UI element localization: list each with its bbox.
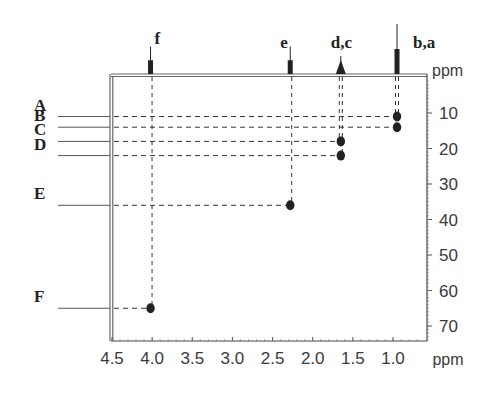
x-tick-label: 3.0	[221, 349, 245, 368]
y-tick-label: 50	[439, 246, 458, 265]
projection-peak-label: e	[280, 33, 288, 52]
x-tick-label: 2.0	[301, 349, 325, 368]
x-tick-label: 4.0	[140, 349, 164, 368]
projection-peak	[148, 60, 153, 74]
projection-peak-label: d,c	[331, 33, 353, 52]
row-label: F	[34, 287, 44, 306]
cross-peak-marker	[286, 200, 294, 210]
y-axis-unit-label: ppm	[432, 62, 463, 79]
top-projection	[148, 24, 399, 74]
projection-peak-label: b,a	[413, 33, 436, 52]
cross-peak-marker	[146, 303, 154, 313]
x-tick-label: 1.5	[341, 349, 365, 368]
guide-lines	[58, 77, 399, 308]
y-tick-label: 30	[439, 175, 458, 194]
cross-peak-marker	[337, 151, 345, 161]
x-tick-label: 3.5	[180, 349, 204, 368]
projection-peak	[288, 60, 293, 74]
x-tick-label: 1.0	[381, 349, 405, 368]
row-label: E	[34, 184, 45, 203]
cross-peak-marker	[393, 122, 401, 132]
cross-peak-marker	[337, 136, 345, 146]
x-axis-unit-label: ppm	[432, 351, 463, 368]
row-label: D	[34, 135, 46, 154]
x-tick-label: 2.5	[261, 349, 285, 368]
labels: fed,cb,aABCDEF	[34, 29, 436, 306]
plot-frame	[110, 74, 427, 341]
x-axis: 4.54.03.53.02.52.01.51.0ppm	[100, 337, 463, 368]
cross-peak-marker	[393, 112, 401, 122]
projection-peak	[395, 49, 400, 74]
y-tick-label: 10	[439, 104, 458, 123]
projection-peak-label: f	[155, 29, 161, 48]
y-tick-label: 70	[439, 317, 458, 336]
y-tick-label: 60	[439, 282, 458, 301]
y-tick-label: 40	[439, 211, 458, 230]
y-axis: 10203040506070ppm	[427, 62, 463, 340]
nmr-2d-chart: 4.54.03.53.02.52.01.51.0ppm 102030405060…	[0, 0, 488, 404]
y-tick-label: 20	[439, 140, 458, 159]
cross-peaks	[146, 112, 401, 314]
x-tick-label: 4.5	[100, 349, 124, 368]
